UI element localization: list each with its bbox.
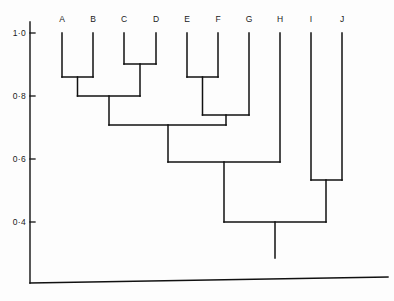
dendrogram-figure: 1·00·80·60·4 ABCDEFGHIJ xyxy=(0,0,394,301)
y-tick-label-2: 0·6 xyxy=(13,154,26,164)
dendrogram-tree xyxy=(62,33,342,258)
leaf-labels: ABCDEFGHIJ xyxy=(59,14,344,24)
leaf-label-c: C xyxy=(121,14,127,24)
axis-group xyxy=(30,22,388,283)
leaf-label-e: E xyxy=(184,14,190,24)
leaf-label-j: J xyxy=(340,14,344,24)
y-tick-label-3: 0·4 xyxy=(13,217,26,227)
y-axis-tick-labels: 1·00·80·60·4 xyxy=(13,28,26,227)
x-axis-baseline xyxy=(30,277,388,283)
leaf-label-h: H xyxy=(277,14,283,24)
dendrogram-plot: 1·00·80·60·4 ABCDEFGHIJ xyxy=(0,0,394,301)
y-tick-label-0: 1·0 xyxy=(13,28,26,38)
leaf-label-d: D xyxy=(153,14,159,24)
leaf-label-b: B xyxy=(90,14,96,24)
y-tick-label-1: 0·8 xyxy=(13,91,26,101)
leaf-label-g: G xyxy=(246,14,253,24)
leaf-label-f: F xyxy=(215,14,220,24)
leaf-label-i: I xyxy=(310,14,312,24)
y-axis-ticks xyxy=(30,33,35,222)
leaf-label-a: A xyxy=(59,14,65,24)
